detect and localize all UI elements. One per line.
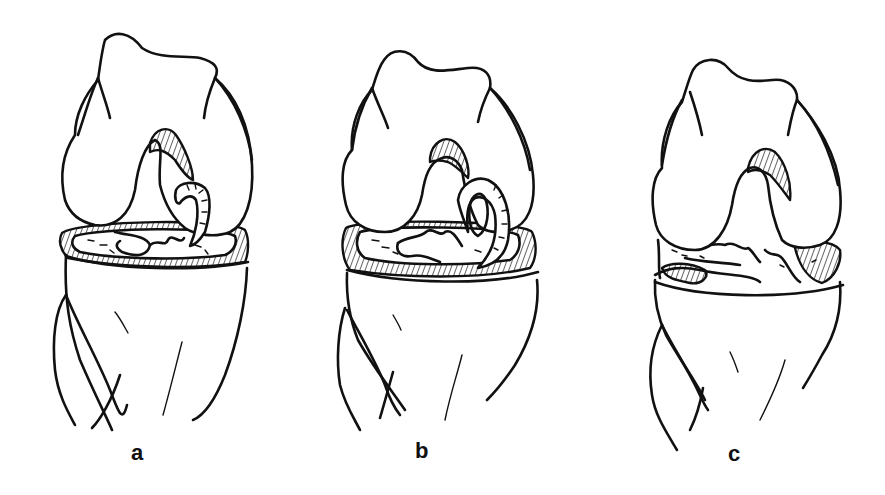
knee-illustration-figure: a b c <box>0 0 885 495</box>
tibia-b <box>338 273 538 430</box>
tibia-a <box>54 255 247 430</box>
femur-a <box>62 34 252 246</box>
panel-label-a: a <box>131 442 143 464</box>
femur-c <box>653 60 841 250</box>
drawing-canvas <box>0 0 885 495</box>
panel-label-c: c <box>728 443 740 465</box>
panel-a <box>54 34 252 430</box>
tibia-c <box>650 280 840 450</box>
panel-c <box>650 60 843 450</box>
panel-label-b: b <box>415 440 428 462</box>
panel-b <box>338 51 538 430</box>
